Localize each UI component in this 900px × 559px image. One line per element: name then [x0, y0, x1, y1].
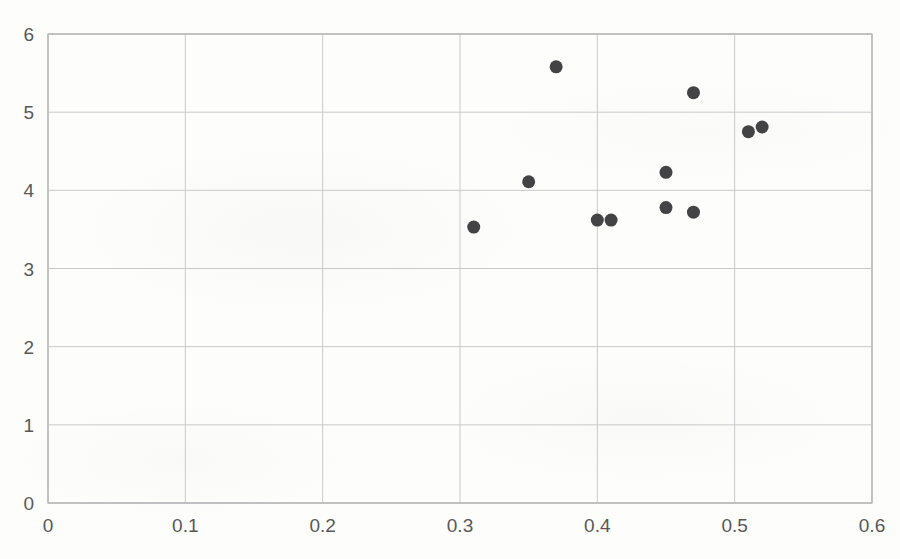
x-tick-label: 0.1 — [172, 515, 198, 536]
x-tick-label: 0.5 — [721, 515, 747, 536]
data-point — [687, 86, 700, 99]
data-point — [467, 221, 480, 234]
data-point — [687, 206, 700, 219]
y-axis-tick-labels: 0123456 — [23, 24, 34, 514]
x-axis-tick-labels: 00.10.20.30.40.50.6 — [43, 515, 886, 536]
x-tick-label: 0 — [43, 515, 54, 536]
y-tick-label: 6 — [23, 24, 34, 45]
y-tick-label: 1 — [23, 415, 34, 436]
scatter-chart: 00.10.20.30.40.50.6 0123456 — [0, 0, 900, 559]
data-point — [742, 125, 755, 138]
data-point — [605, 214, 618, 227]
y-tick-label: 4 — [23, 180, 34, 201]
x-tick-label: 0.3 — [447, 515, 473, 536]
x-tick-label: 0.4 — [584, 515, 611, 536]
y-tick-label: 3 — [23, 259, 34, 280]
data-point — [660, 201, 673, 214]
y-tick-label: 0 — [23, 493, 34, 514]
data-point-group — [467, 60, 768, 233]
data-point — [591, 214, 604, 227]
plot-canvas: 00.10.20.30.40.50.6 0123456 — [0, 0, 900, 559]
x-tick-label: 0.2 — [309, 515, 335, 536]
y-tick-label: 2 — [23, 337, 34, 358]
data-point — [660, 166, 673, 179]
data-point — [550, 60, 563, 73]
data-point — [756, 121, 769, 134]
data-point — [522, 175, 535, 188]
y-tick-label: 5 — [23, 102, 34, 123]
x-tick-label: 0.6 — [859, 515, 885, 536]
